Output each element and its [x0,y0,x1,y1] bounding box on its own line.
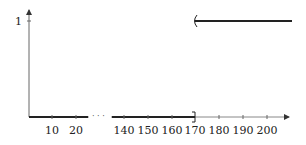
x-tick-label: 140 [114,124,135,137]
y-tick-label-1: 1 [15,15,22,28]
x-tick-label: 180 [209,124,230,137]
x-tick-label: 200 [257,124,278,137]
x-tick-label: 10 [45,124,59,137]
x-tick-label: 160 [162,124,183,137]
x-tick-label: 150 [138,124,159,137]
axis-break-dots: · · · [92,112,105,121]
step-function-chart: 1 · · · 10 20 140 150 160 170 180 190 20… [0,0,306,145]
x-tick-label: 20 [69,124,83,137]
x-tick-label: 170 [185,124,206,137]
x-tick-label: 190 [233,124,254,137]
